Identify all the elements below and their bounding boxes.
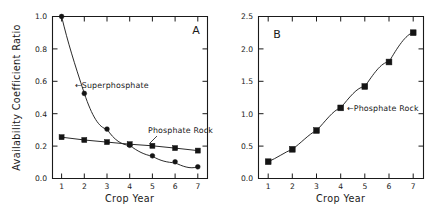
panel-b-ytick-0: 0.0 <box>241 174 253 183</box>
panel-a-label: A <box>192 24 200 37</box>
series-phosphate-rock-b-line <box>268 33 413 162</box>
panel-b-ytick-5: 2.5 <box>241 12 253 21</box>
panel-a-xtick-5: 5 <box>150 182 155 191</box>
panel-b-xtick-4: 4 <box>338 182 343 191</box>
two-panel-line-chart: 0.0 0.2 0.4 0.6 0.8 1.0 1 2 3 4 5 6 7 Cr… <box>0 0 441 218</box>
panel-a-ytick-5: 1.0 <box>35 12 47 21</box>
panel-b-x-axis-title: Crop Year <box>316 193 365 204</box>
panel-b-xtick-6: 6 <box>387 182 392 191</box>
panel-b-label: B <box>273 28 281 41</box>
panel-b-ytick-1: 0.5 <box>241 142 253 151</box>
panel-a: 0.0 0.2 0.4 0.6 0.8 1.0 1 2 3 4 5 6 7 Cr… <box>11 12 213 204</box>
series-phosphate-rock-a-markers <box>59 135 200 153</box>
panel-b-xtick-1: 1 <box>266 182 271 191</box>
panel-a-ytick-2: 0.4 <box>35 110 47 119</box>
panel-b-x-ticks <box>268 17 413 179</box>
panel-a-xtick-4: 4 <box>127 182 132 191</box>
series-phosphate-rock-b-markers <box>265 30 416 165</box>
figure-container: 0.0 0.2 0.4 0.6 0.8 1.0 1 2 3 4 5 6 7 Cr… <box>0 0 441 218</box>
panel-b-xtick-3: 3 <box>314 182 319 191</box>
panel-a-x-axis-title: Crop Year <box>105 193 154 204</box>
panel-a-ytick-4: 0.8 <box>35 45 47 54</box>
panel-b-xtick-7: 7 <box>411 182 416 191</box>
panel-b-ytick-4: 2.0 <box>241 45 253 54</box>
panel-a-ytick-0: 0.0 <box>35 174 47 183</box>
panel-a-xtick-3: 3 <box>105 182 110 191</box>
panel-a-xtick-7: 7 <box>195 182 200 191</box>
panel-b-xtick-2: 2 <box>290 182 295 191</box>
annotation-phosphate-rock-a: Phosphate Rock <box>148 126 213 135</box>
panel-a-x-ticks <box>62 17 198 179</box>
panel-a-ytick-3: 0.6 <box>35 77 47 86</box>
panel-a-ytick-1: 0.2 <box>35 142 47 151</box>
annotation-phosphate-rock-b: ←Phosphate Rock <box>347 104 419 113</box>
panel-a-xtick-6: 6 <box>173 182 178 191</box>
annotation-phosphate-rock-a-pointer <box>150 136 158 144</box>
panel-a-y-ticks <box>53 17 208 179</box>
panel-a-axes-frame <box>53 17 208 179</box>
panel-a-xtick-2: 2 <box>82 182 87 191</box>
panel-b-ytick-3: 1.5 <box>241 77 253 86</box>
panel-b-xtick-5: 5 <box>362 182 367 191</box>
panel-b: 0.0 0.5 1.0 1.5 2.0 2.5 1 2 3 4 5 6 7 Cr… <box>241 12 424 204</box>
panel-b-ytick-2: 1.0 <box>241 110 253 119</box>
panel-a-xtick-1: 1 <box>59 182 64 191</box>
panel-a-y-axis-title: Availability Coefficient Ratio <box>11 24 22 171</box>
annotation-superphosphate: ←Superphosphate <box>75 81 149 90</box>
